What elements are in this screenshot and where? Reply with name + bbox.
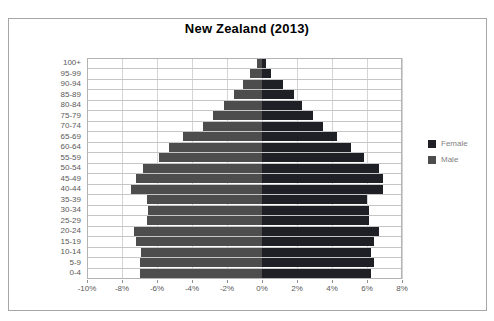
x-tickmark (402, 280, 403, 283)
x-tickmark (262, 280, 263, 283)
legend: Female Male (428, 139, 468, 171)
x-tickmark (367, 280, 368, 283)
row-gridline (87, 247, 402, 248)
row-gridline (87, 68, 402, 69)
male-bar (224, 101, 263, 110)
female-bar (262, 59, 266, 68)
y-axis-label: 95-99 (36, 69, 81, 80)
x-tickmark (157, 280, 158, 283)
y-axis-label: 0-4 (36, 268, 81, 279)
female-bar (262, 237, 374, 246)
row-gridline (87, 163, 402, 164)
x-gridline (87, 58, 88, 279)
row-gridline (87, 236, 402, 237)
male-bar (234, 90, 262, 99)
x-gridline (402, 58, 403, 279)
female-bar (262, 248, 371, 257)
x-tick-label: -10% (71, 284, 103, 293)
y-axis-label: 80-84 (36, 100, 81, 111)
male-bar (147, 216, 263, 225)
y-axis-label: 20-24 (36, 226, 81, 237)
y-axis-label: 100+ (36, 58, 81, 69)
female-bar (262, 101, 302, 110)
row-gridline (87, 173, 402, 174)
legend-label-female: Female (441, 139, 468, 148)
male-bar (213, 111, 262, 120)
y-axis-label: 90-94 (36, 79, 81, 90)
row-gridline (87, 257, 402, 258)
female-bar (262, 227, 379, 236)
female-bar (262, 269, 371, 278)
x-tick-label: 0% (246, 284, 278, 293)
female-bar (262, 122, 323, 131)
y-axis-label: 40-44 (36, 184, 81, 195)
x-tickmark (332, 280, 333, 283)
female-bar (262, 80, 283, 89)
female-bar (262, 174, 383, 183)
x-tick-label: -6% (141, 284, 173, 293)
x-tick-label: -4% (176, 284, 208, 293)
male-bar (134, 227, 262, 236)
row-gridline (87, 121, 402, 122)
row-gridline (87, 89, 402, 90)
female-bar (262, 132, 337, 141)
female-bar (262, 164, 379, 173)
female-bar (262, 69, 271, 78)
female-bar (262, 153, 364, 162)
legend-item-female: Female (428, 139, 468, 148)
male-bar (250, 69, 262, 78)
y-axis-label: 70-74 (36, 121, 81, 132)
chart-title: New Zealand (2013) (0, 21, 494, 36)
male-bar (136, 174, 262, 183)
y-axis-label: 35-39 (36, 195, 81, 206)
row-gridline (87, 100, 402, 101)
row-gridline (87, 194, 402, 195)
y-axis-label: 30-34 (36, 205, 81, 216)
female-bar (262, 258, 374, 267)
y-axis-label: 85-89 (36, 90, 81, 101)
x-tickmark (297, 280, 298, 283)
male-bar (243, 80, 262, 89)
x-gridline (122, 58, 123, 279)
male-swatch (428, 156, 436, 164)
male-bar (159, 153, 262, 162)
x-tick-label: 8% (386, 284, 418, 293)
row-gridline (87, 110, 402, 111)
y-axis-label: 10-14 (36, 247, 81, 258)
row-gridline (87, 131, 402, 132)
male-bar (183, 132, 262, 141)
y-axis-label: 65-69 (36, 132, 81, 143)
y-axis-label: 15-19 (36, 237, 81, 248)
x-tickmark (227, 280, 228, 283)
y-axis-label: 45-49 (36, 174, 81, 185)
female-bar (262, 143, 351, 152)
male-bar (136, 237, 262, 246)
legend-item-male: Male (428, 155, 468, 164)
x-tick-label: 2% (281, 284, 313, 293)
female-bar (262, 206, 369, 215)
x-tick-label: 6% (351, 284, 383, 293)
male-bar (148, 206, 262, 215)
male-bar (131, 185, 262, 194)
population-pyramid-figure: New Zealand (2013) Female Male -10%-8%-6… (0, 0, 494, 321)
x-tickmark (122, 280, 123, 283)
row-gridline (87, 278, 402, 279)
y-axis-label: 5-9 (36, 258, 81, 269)
row-gridline (87, 142, 402, 143)
x-tick-label: -8% (106, 284, 138, 293)
y-axis-label: 60-64 (36, 142, 81, 153)
row-gridline (87, 152, 402, 153)
row-gridline (87, 226, 402, 227)
male-bar (147, 195, 263, 204)
male-bar (203, 122, 263, 131)
y-axis-label: 25-29 (36, 216, 81, 227)
row-gridline (87, 58, 402, 59)
y-axis-label: 50-54 (36, 163, 81, 174)
female-bar (262, 111, 313, 120)
x-tick-label: -2% (211, 284, 243, 293)
male-bar (143, 164, 262, 173)
x-tick-label: 4% (316, 284, 348, 293)
male-bar (140, 258, 263, 267)
female-swatch (428, 140, 436, 148)
row-gridline (87, 205, 402, 206)
